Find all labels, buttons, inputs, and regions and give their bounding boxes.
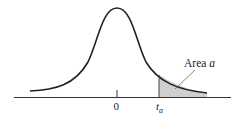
zero-label: 0 xyxy=(114,100,120,112)
shaded-tail-area xyxy=(159,75,207,97)
area-label: Area a xyxy=(184,57,215,69)
t-alpha-label: ta xyxy=(156,100,163,115)
density-curve xyxy=(30,8,207,93)
t-distribution-diagram: Area a 0 ta xyxy=(0,0,234,121)
area-leader-line xyxy=(175,70,195,89)
